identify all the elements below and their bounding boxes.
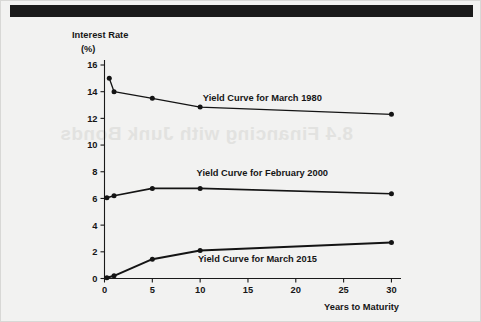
y-axis-units: (%) <box>81 44 95 54</box>
figure-container: 8.4 Financing with Junk Bonds 0246810121… <box>0 0 481 322</box>
y-tick-label: 6 <box>92 194 97 204</box>
x-tick-label: 5 <box>150 285 155 295</box>
y-tick-label: 14 <box>87 87 98 97</box>
series-point <box>112 273 117 278</box>
x-tick-label: 15 <box>243 285 253 295</box>
y-tick-label: 16 <box>87 60 97 70</box>
series-point <box>389 191 394 196</box>
series-label-2: Yield Curve for March 2015 <box>198 254 317 264</box>
series-point <box>150 186 155 191</box>
y-tick-label: 2 <box>92 247 97 257</box>
series-point <box>112 193 117 198</box>
x-tick-label: 10 <box>195 285 205 295</box>
series-point <box>150 96 155 101</box>
y-axis-title: Interest Rate <box>72 30 128 40</box>
series-point <box>150 257 155 262</box>
series-point <box>198 186 203 191</box>
x-tick-label: 20 <box>291 285 301 295</box>
x-axis-title: Years to Maturity <box>324 302 400 312</box>
y-tick-label: 12 <box>87 114 97 124</box>
series-point <box>198 248 203 253</box>
series-point <box>104 275 109 280</box>
y-tick-label: 4 <box>92 221 98 231</box>
y-tick-label: 8 <box>92 167 97 177</box>
series-label-1: Yield Curve for February 2000 <box>197 168 328 178</box>
series-point <box>107 76 112 81</box>
series-line-1 <box>107 188 392 197</box>
series-point <box>198 105 203 110</box>
series-point <box>104 195 109 200</box>
series-point <box>112 89 117 94</box>
yield-curve-chart: 0246810121416051015202530Interest Rate(%… <box>1 1 481 322</box>
x-tick-label: 25 <box>338 285 348 295</box>
series-point <box>389 240 394 245</box>
series-label-0: Yield Curve for March 1980 <box>203 93 322 103</box>
x-tick-label: 30 <box>386 285 396 295</box>
y-tick-label: 10 <box>87 140 97 150</box>
x-tick-label: 0 <box>102 285 107 295</box>
series-point <box>389 112 394 117</box>
y-tick-label: 0 <box>92 274 97 284</box>
